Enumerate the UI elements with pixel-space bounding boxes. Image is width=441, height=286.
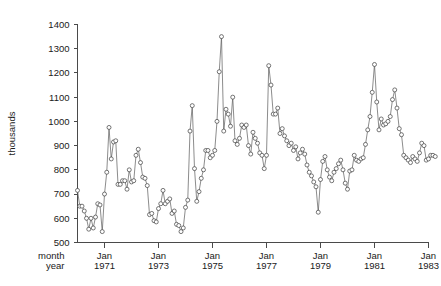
data-point-marker	[309, 174, 313, 178]
data-point-marker	[219, 35, 223, 39]
data-point-marker	[339, 158, 343, 162]
data-point-marker	[422, 144, 426, 148]
data-point-marker	[145, 184, 149, 188]
x-axis-row-label-year: year	[46, 260, 64, 271]
data-point-marker	[300, 147, 304, 151]
data-series	[76, 35, 438, 234]
data-point-marker	[217, 70, 221, 74]
data-point-marker	[127, 168, 131, 172]
data-point-marker	[253, 136, 257, 140]
data-point-marker	[85, 216, 89, 220]
data-point-marker	[267, 64, 271, 68]
data-point-marker	[244, 123, 248, 127]
data-point-marker	[372, 62, 376, 66]
series-line	[78, 37, 436, 232]
data-point-marker	[397, 127, 401, 131]
data-point-marker	[361, 156, 365, 160]
data-point-marker	[334, 167, 338, 171]
y-tick-label: 600	[54, 213, 70, 224]
data-point-marker	[195, 199, 199, 203]
data-point-marker	[332, 170, 336, 174]
data-point-marker	[228, 124, 232, 128]
data-point-marker	[264, 153, 268, 157]
x-tick-year-label: 1979	[310, 260, 331, 271]
y-axis-title: thousands	[6, 111, 17, 155]
data-point-marker	[282, 134, 286, 138]
data-point-marker	[327, 175, 331, 179]
data-point-marker	[118, 182, 122, 186]
x-axis: Jan1971Jan1973Jan1975Jan1977Jan1979Jan19…	[78, 243, 440, 271]
data-point-marker	[368, 115, 372, 119]
data-point-marker	[107, 125, 111, 129]
data-point-marker	[179, 230, 183, 234]
data-point-marker	[393, 88, 397, 92]
data-point-marker	[105, 170, 109, 174]
data-point-marker	[352, 153, 356, 157]
data-point-marker	[341, 168, 345, 172]
data-point-marker	[307, 170, 311, 174]
data-point-marker	[395, 106, 399, 110]
data-point-marker	[255, 141, 259, 145]
data-point-marker	[87, 227, 91, 231]
data-point-marker	[363, 142, 367, 146]
data-point-marker	[377, 128, 381, 132]
data-point-marker	[426, 157, 430, 161]
data-point-marker	[89, 216, 93, 220]
data-point-marker	[280, 127, 284, 131]
data-point-marker	[181, 226, 185, 230]
data-point-marker	[80, 204, 84, 208]
data-point-marker	[294, 145, 298, 149]
data-point-marker	[262, 167, 266, 171]
data-point-marker	[415, 159, 419, 163]
data-point-marker	[303, 152, 307, 156]
data-point-marker	[154, 220, 158, 224]
data-point-marker	[325, 168, 329, 172]
data-point-marker	[312, 180, 316, 184]
data-point-marker	[103, 192, 107, 196]
data-point-marker	[76, 188, 80, 192]
data-point-marker	[224, 107, 228, 111]
data-point-marker	[318, 178, 322, 182]
data-point-marker	[233, 139, 237, 143]
data-point-marker	[100, 230, 104, 234]
data-point-marker	[278, 132, 282, 136]
data-point-marker	[388, 115, 392, 119]
data-point-marker	[150, 211, 154, 215]
data-point-marker	[249, 152, 253, 156]
data-point-marker	[379, 117, 383, 121]
data-point-marker	[330, 179, 334, 183]
data-point-marker	[210, 153, 214, 157]
x-tick-year-label: 1981	[364, 260, 385, 271]
data-point-marker	[231, 95, 235, 99]
x-tick-year-label: 1977	[256, 260, 277, 271]
data-point-marker	[433, 155, 437, 159]
data-point-marker	[109, 157, 113, 161]
y-tick-label: 1200	[48, 67, 69, 78]
data-point-marker	[213, 148, 217, 152]
data-point-marker	[188, 129, 192, 133]
data-point-marker	[260, 153, 264, 157]
data-point-marker	[206, 148, 210, 152]
time-series-chart: 50060070080090010001100120013001400 Jan1…	[0, 0, 441, 286]
data-point-marker	[114, 139, 118, 143]
data-point-marker	[375, 100, 379, 104]
data-point-marker	[197, 190, 201, 194]
data-point-marker	[350, 168, 354, 172]
data-point-marker	[139, 161, 143, 165]
data-point-marker	[157, 207, 161, 211]
x-tick-year-label: 1973	[148, 260, 169, 271]
data-point-marker	[269, 83, 273, 87]
data-point-marker	[251, 130, 255, 134]
data-point-marker	[370, 90, 374, 94]
data-point-marker	[345, 187, 349, 191]
data-point-marker	[273, 112, 277, 116]
data-point-marker	[134, 153, 138, 157]
data-point-marker	[321, 159, 325, 163]
data-point-marker	[172, 209, 176, 213]
y-tick-label: 1300	[48, 43, 69, 54]
data-point-marker	[246, 144, 250, 148]
data-point-marker	[399, 133, 403, 137]
y-tick-label: 1000	[48, 116, 69, 127]
data-point-marker	[366, 128, 370, 132]
data-point-marker	[186, 198, 190, 202]
